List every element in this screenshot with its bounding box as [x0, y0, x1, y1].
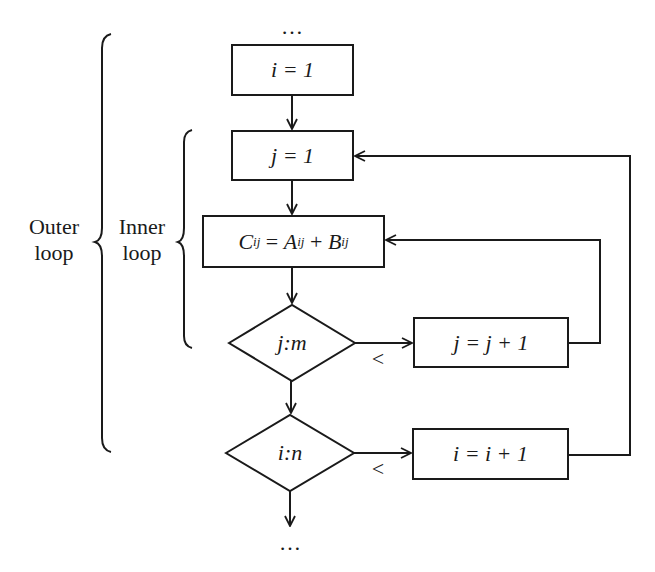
compute-eq: = — [266, 229, 278, 255]
inner-loop-label-line2: loop — [110, 240, 174, 266]
inner-loop-label: Inner loop — [110, 214, 174, 266]
init-j-text: j = 1 — [232, 131, 353, 180]
test-j-less-label: < — [366, 346, 390, 372]
compute-c-sub: ij — [253, 234, 260, 250]
compute-b-sub: ij — [341, 234, 348, 250]
inc-j-text: j = j + 1 — [414, 318, 568, 367]
outer-loop-label-line1: Outer — [18, 214, 90, 240]
outer-loop-label-line2: loop — [18, 240, 90, 266]
start-ellipsis: … — [272, 14, 312, 40]
init-i-text: i = 1 — [232, 45, 353, 95]
test-j-text: j:m — [229, 318, 355, 368]
outer-loop-label: Outer loop — [18, 214, 90, 266]
test-i-text: i:n — [226, 428, 354, 478]
edge-inci-initj — [355, 156, 630, 455]
compute-plus: + — [310, 229, 322, 255]
compute-c: C — [238, 229, 253, 255]
inner-loop-brace — [178, 130, 192, 348]
compute-a-sub: ij — [297, 234, 304, 250]
compute-text: Cij = Aij + Bij — [203, 216, 384, 267]
inner-loop-label-line1: Inner — [110, 214, 174, 240]
compute-a: A — [284, 229, 297, 255]
end-ellipsis: … — [270, 530, 310, 556]
outer-loop-brace — [95, 34, 111, 452]
compute-b: B — [328, 229, 341, 255]
inc-i-text: i = i + 1 — [413, 429, 568, 479]
test-i-less-label: < — [366, 456, 390, 482]
